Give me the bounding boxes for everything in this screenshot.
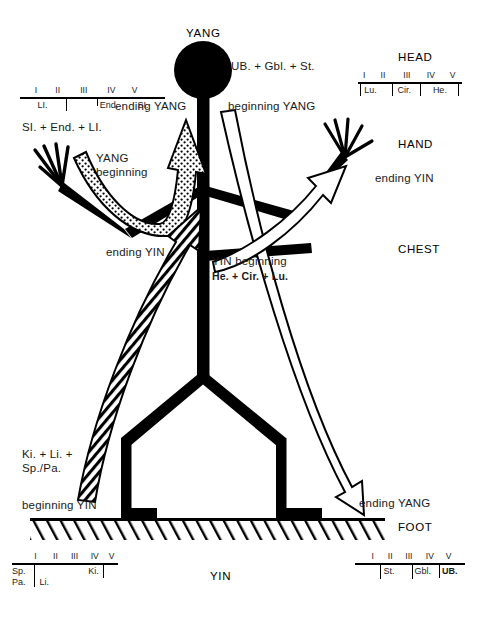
label-ending-yin-right: ending YIN (375, 172, 434, 186)
figure-head (174, 41, 232, 99)
title-yang: YANG (186, 27, 221, 39)
label-yin-beginning: YIN beginning (212, 255, 287, 269)
roman-1: I (363, 70, 365, 80)
roman-1: I (34, 551, 36, 561)
scale-arm-label-end: End. (100, 100, 119, 110)
scale-foot-left-romans: I II III IV V (12, 551, 118, 563)
label-he-cir-lu: He. + Cir. + Lu. (212, 270, 288, 282)
scale-foot-right: I II III IV V St. Gbl. UB. (355, 551, 465, 591)
scale-arm-romans: I II III IV V (20, 85, 165, 97)
roman-5: V (446, 551, 452, 561)
roman-5: V (450, 70, 456, 80)
scale-foot-left-labels: Sp. Pa. Li. Ki. (12, 565, 118, 591)
label-ending-yin-left: ending YIN (106, 246, 165, 260)
region-head: HEAD (398, 51, 432, 63)
roman-4: IV (426, 551, 434, 561)
roman-3: III (403, 70, 410, 80)
label-ub-gbl-st: UB. + Gbl. + St. (231, 60, 315, 74)
label-ending-yang-bottom: ending YANG (359, 497, 430, 511)
scale-foot-left-label-li: Li. (40, 577, 50, 587)
scale-foot-right-labels: St. Gbl. UB. (355, 565, 465, 591)
scale-foot-right-label-st: St. (384, 566, 395, 576)
scale-arm-label-li: LI. (37, 100, 47, 110)
scale-foot-right-label-ub: UB. (442, 566, 458, 576)
scale-foot-right-label-gbl: Gbl. (414, 566, 431, 576)
roman-5: V (109, 551, 115, 561)
label-ki-li-line2: Sp./Pa. (22, 462, 61, 476)
roman-1: I (35, 85, 37, 95)
region-chest: CHEST (398, 243, 440, 255)
scale-head-label-lu: Lu. (364, 85, 377, 95)
region-hand: HAND (398, 138, 433, 150)
ground (30, 518, 385, 541)
roman-2: II (55, 85, 60, 95)
roman-4: IV (427, 70, 435, 80)
scale-head: I II III IV V Lu. Cir. He. (358, 70, 462, 110)
roman-2: II (53, 551, 58, 561)
scale-arm-label-si: SI. (137, 100, 148, 110)
label-yang-beginning-line1: YANG (96, 152, 129, 166)
scale-arm-labels: LI. End. SI. (20, 99, 165, 125)
roman-5: V (132, 85, 138, 95)
scale-head-label-cir: Cir. (398, 85, 412, 95)
roman-1: I (371, 551, 373, 561)
roman-3: III (71, 551, 78, 561)
scale-foot-left-label-ki: Ki. (88, 566, 99, 576)
scale-head-label-he: He. (433, 85, 447, 95)
label-yang-beginning-line2: beginning (96, 166, 148, 180)
roman-3: III (80, 85, 87, 95)
title-yin: YIN (210, 570, 231, 582)
scale-foot-left-label-pa: Pa. (12, 577, 26, 587)
roman-3: III (405, 551, 412, 561)
scale-foot-left: I II III IV V Sp. Pa. Li. Ki. (12, 551, 118, 591)
scale-head-labels: Lu. Cir. He. (358, 84, 462, 110)
label-beginning-yin: beginning YIN (22, 499, 97, 513)
region-foot: FOOT (398, 521, 432, 533)
roman-2: II (381, 70, 386, 80)
diagram-canvas: YANG YIN HEAD HAND CHEST FOOT UB. + Gbl.… (0, 0, 477, 622)
label-beginning-yang: beginning YANG (228, 100, 315, 114)
roman-4: IV (91, 551, 99, 561)
scale-head-romans: I II III IV V (358, 70, 462, 82)
roman-2: II (388, 551, 393, 561)
figure-legs (121, 375, 322, 519)
label-ki-li-line1: Ki. + Li. + (22, 448, 73, 462)
scale-foot-right-romans: I II III IV V (355, 551, 465, 563)
scale-arm-upper-left: I II III IV V LI. End. SI. (20, 85, 165, 125)
scale-foot-left-label-sp: Sp. (12, 566, 26, 576)
roman-4: IV (107, 85, 115, 95)
